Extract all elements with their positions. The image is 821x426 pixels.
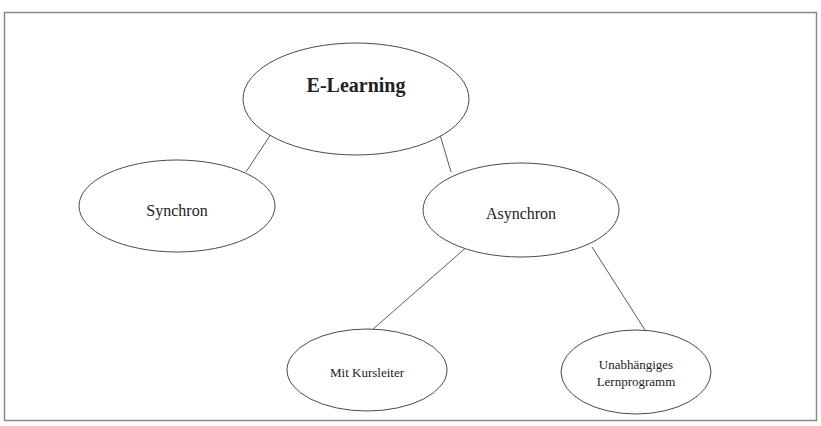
node-mit-kursleiter-label: Mit Kursleiter: [330, 365, 405, 380]
node-unabhaengiges-lernprogramm: Unabhängiges Lernprogramm: [561, 330, 711, 414]
edge-asynchron-mit-kursleiter: [372, 245, 469, 330]
node-unabhaengiges-label-line1: Unabhängiges: [599, 357, 673, 372]
node-e-learning-label: E-Learning: [307, 74, 406, 97]
node-synchron: Synchron: [79, 160, 275, 252]
node-e-learning-ellipse: [243, 43, 469, 155]
e-learning-diagram: E-Learning Synchron Asynchron Mit Kursle…: [0, 0, 821, 426]
node-synchron-label: Synchron: [146, 202, 207, 220]
edge-asynchron-unabhaengiges-lernprogramm: [592, 247, 645, 330]
node-unabhaengiges-label-line2: Lernprogramm: [597, 374, 676, 389]
node-asynchron-label: Asynchron: [486, 205, 556, 223]
node-mit-kursleiter: Mit Kursleiter: [287, 329, 447, 411]
node-asynchron: Asynchron: [423, 163, 619, 257]
node-unabhaengiges-lernprogramm-ellipse: [561, 330, 711, 414]
node-e-learning: E-Learning: [243, 43, 469, 155]
